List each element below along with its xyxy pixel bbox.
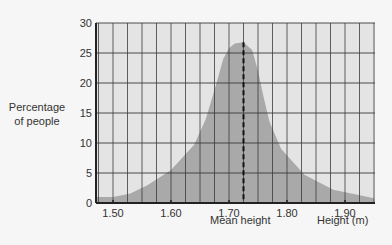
y-tick-label: 20 bbox=[80, 77, 92, 89]
x-axis-label: Height (m) bbox=[317, 214, 368, 226]
y-tick-label: 5 bbox=[86, 167, 92, 179]
x-tick-label: 1.60 bbox=[160, 207, 181, 219]
y-tick-label: 25 bbox=[80, 47, 92, 59]
x-tick-label: 1.80 bbox=[276, 207, 297, 219]
y-tick-label: 0 bbox=[86, 197, 92, 209]
y-tick-label: 10 bbox=[80, 137, 92, 149]
mean-height-label: Mean height bbox=[210, 214, 271, 226]
y-tick-label: 30 bbox=[80, 17, 92, 29]
x-tick-label: 1.50 bbox=[102, 207, 123, 219]
y-tick-label: 15 bbox=[80, 107, 92, 119]
height-distribution-chart: 0510152025301.501.601.701.801.90 bbox=[0, 0, 392, 245]
